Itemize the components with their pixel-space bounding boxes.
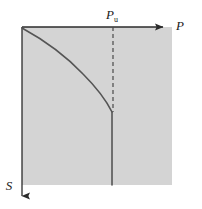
critical-pressure-label-base: P xyxy=(105,7,114,22)
critical-pressure-label: Pu xyxy=(105,7,118,24)
entropy-axis-label: S xyxy=(6,178,13,193)
critical-pressure-label-subscript: u xyxy=(114,15,118,24)
shaded-domain-region xyxy=(22,27,172,185)
pressure-axis-label: P xyxy=(175,18,184,33)
schematic-diagram: P S Pu xyxy=(0,0,202,209)
figure-container: P S Pu xyxy=(0,0,202,209)
